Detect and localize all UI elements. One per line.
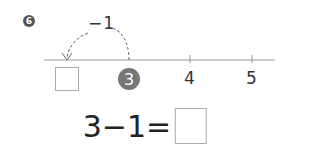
equation-answer-box[interactable] xyxy=(175,108,207,144)
equation: 3 − 1 = xyxy=(83,108,207,144)
start-value-circle: 3 xyxy=(118,68,140,90)
equation-equals: = xyxy=(146,109,171,144)
tick-label-4: 4 xyxy=(184,68,195,88)
tick-label-5: 5 xyxy=(246,68,257,88)
equation-right: 1 xyxy=(127,109,146,144)
jump-label: −1 xyxy=(88,13,115,33)
equation-operator: − xyxy=(102,109,127,144)
number-line-answer-box[interactable] xyxy=(55,67,79,91)
equation-left: 3 xyxy=(83,109,102,144)
